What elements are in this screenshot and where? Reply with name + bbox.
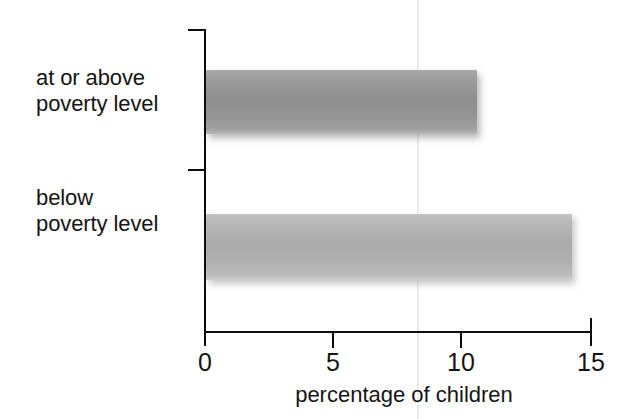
x-axis-tick-label-15: 15 <box>561 348 621 376</box>
x-axis-tick-10 <box>460 333 462 348</box>
x-axis-tick-15 <box>590 318 592 346</box>
bar-below-poverty-level <box>206 214 572 280</box>
category-label-below-poverty-level: below poverty level <box>36 185 196 237</box>
bar-chart: at or above poverty level below poverty … <box>0 0 629 419</box>
x-axis-tick-label-0: 0 <box>175 348 235 376</box>
bar-at-or-above-poverty-level <box>206 70 477 134</box>
bar-fill <box>206 214 572 280</box>
bar-fill <box>206 70 477 134</box>
scan-artifact <box>417 0 419 419</box>
x-axis-tick-5 <box>332 333 334 348</box>
y-axis-tick-middle <box>188 169 204 171</box>
x-axis-tick-label-10: 10 <box>431 348 491 376</box>
category-label-at-or-above-poverty-level: at or above poverty level <box>36 65 196 117</box>
x-axis-line <box>204 331 592 333</box>
x-axis-tick-0 <box>204 320 206 346</box>
y-axis-line <box>204 29 206 332</box>
y-axis-tick-top <box>188 29 204 31</box>
x-axis-tick-label-5: 5 <box>303 348 363 376</box>
x-axis-title: percentage of children <box>204 382 604 408</box>
